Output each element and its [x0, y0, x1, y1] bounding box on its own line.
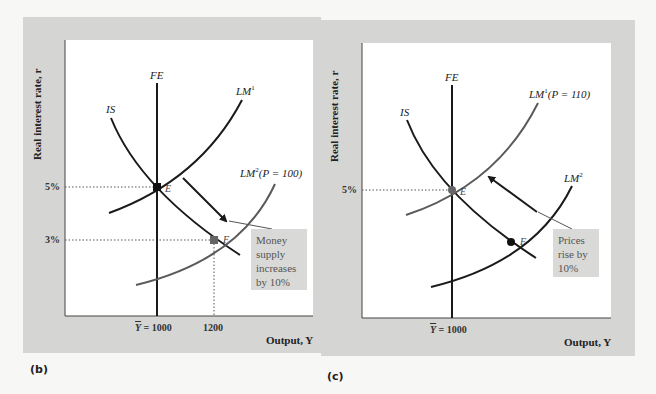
panel-b-lm1-label: LM1 — [236, 84, 255, 97]
panel-b-note-box: Money supply increases by 10% — [251, 229, 307, 290]
panel-b-lm2-label-suffix: (P = 100) — [259, 167, 302, 179]
panel-c-y-tick-5: 5% — [342, 184, 357, 195]
panel-b-point-f — [210, 236, 218, 244]
panel-c-note-box: Prices rise by 10% — [553, 229, 599, 277]
diagram-graphics — [0, 0, 656, 394]
panel-b-point-f-label: F — [223, 234, 229, 245]
panel-c-lm1-label-text: LM — [529, 88, 544, 100]
panel-b-lm1-label-text: LM — [236, 85, 251, 97]
panel-b-y-tick-3: 3% — [45, 234, 60, 245]
panel-b-lm2-label: LM2(P = 100) — [240, 166, 302, 179]
panel-c-x-axis-label: Output, Y — [564, 336, 611, 348]
panel-b-y-tick-5: 5% — [45, 181, 60, 192]
panel-b-point-e — [153, 183, 161, 191]
panel-b-x-tick-ybar-text: Y = 1000 — [135, 322, 172, 333]
panel-c-is-curve — [407, 120, 536, 258]
panel-c-y-axis-label: Real interest rate, r — [328, 71, 340, 162]
panel-b-x-tick-ybar: Y = 1000 — [135, 322, 172, 333]
panel-c-shift-arrow — [489, 177, 537, 212]
panel-c-is-label: IS — [400, 106, 409, 118]
panel-b-tag: (b) — [30, 363, 48, 376]
panel-c-lm2-label-sup: 2 — [579, 171, 583, 179]
panel-b-fe-label: FE — [150, 69, 163, 81]
panel-c-x-tick-ybar: Y = 1000 — [430, 324, 467, 335]
panel-c-point-e — [448, 186, 456, 194]
panel-b-is-label: IS — [106, 103, 115, 115]
panel-b-point-e-label: E — [165, 183, 171, 194]
panel-b-shift-arrow — [183, 178, 226, 221]
panel-c-x-tick-ybar-text: Y = 1000 — [430, 324, 467, 335]
panel-b-guides — [65, 187, 214, 316]
panel-b-lm1-label-sup: 1 — [251, 84, 255, 92]
panel-b-x-tick-1200: 1200 — [203, 322, 223, 333]
panel-b-lm1-curve — [109, 100, 242, 213]
panel-c-fe-label: FE — [445, 71, 458, 83]
panel-c-lm1-label-suffix: (P = 110) — [548, 88, 590, 100]
panel-c-tag: (c) — [327, 370, 344, 383]
panel-c-lm2-label: LM2 — [564, 171, 583, 184]
panel-c-lm2-label-text: LM — [564, 172, 579, 184]
panel-b-lm2-label-text: LM — [240, 167, 255, 179]
panel-b-is-curve — [111, 118, 240, 255]
panel-c-point-f — [507, 238, 515, 246]
panel-c-lm1-label: LM1(P = 110) — [529, 87, 590, 100]
panel-c-point-f-label: F — [520, 236, 526, 247]
panel-c-point-e-label: E — [460, 186, 466, 197]
panel-b-x-axis-label: Output, Y — [266, 334, 313, 346]
panel-b-y-axis-label: Real interest rate, r — [31, 69, 43, 160]
